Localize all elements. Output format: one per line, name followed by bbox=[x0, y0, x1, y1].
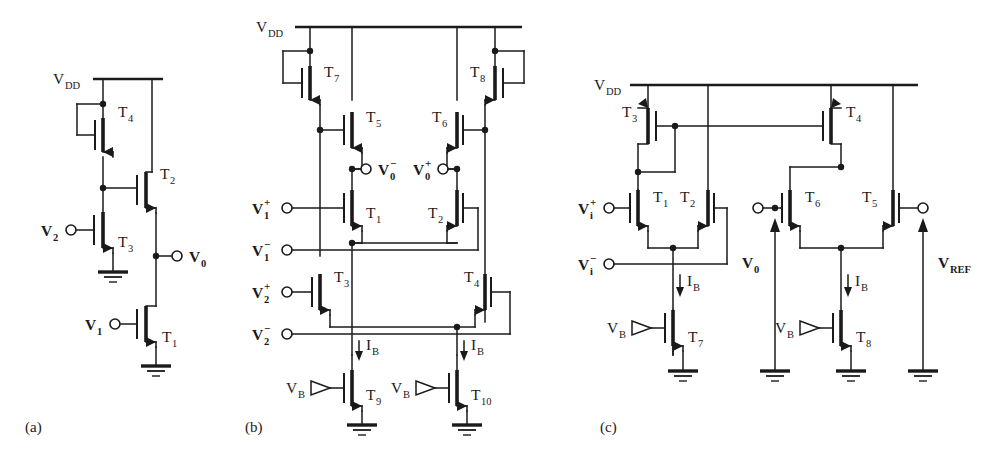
label-c-V0: V bbox=[742, 254, 754, 271]
label-c-IB-left: I bbox=[687, 272, 692, 289]
transistor-c-T5 bbox=[883, 190, 918, 248]
port-c-Vip[interactable] bbox=[604, 203, 614, 213]
label-b-V1p-sub: 1 bbox=[264, 210, 269, 221]
label-c-T2-sub: 2 bbox=[690, 198, 695, 209]
transistor-T1 bbox=[121, 306, 156, 366]
label-b-T8-sub: 8 bbox=[480, 73, 485, 84]
transistor-T4 bbox=[77, 104, 113, 188]
transistor-T9 bbox=[330, 355, 362, 425]
label-c-T1-sub: 1 bbox=[663, 198, 668, 209]
transistor-c-T2 bbox=[698, 190, 727, 264]
label-c-VB-left-sub: B bbox=[619, 329, 626, 340]
label-c-VREF: V bbox=[938, 254, 950, 271]
transistor-T8 bbox=[485, 51, 524, 130]
transistor-T10 bbox=[435, 355, 467, 425]
label-a-T2: T bbox=[160, 165, 170, 182]
label-b-V0p-sup: + bbox=[425, 157, 431, 169]
current-b-IB-right bbox=[460, 341, 468, 361]
label-b-V0p-sub: 0 bbox=[425, 171, 430, 182]
label-b-T6: T bbox=[432, 108, 442, 125]
label-b-vdd-sub: DD bbox=[268, 28, 284, 39]
label-b-V1p-sup: + bbox=[264, 196, 270, 208]
label-c-VB-left: V bbox=[607, 319, 619, 336]
label-b-T7-sub: 7 bbox=[334, 73, 339, 84]
port-b-V1p[interactable] bbox=[282, 203, 292, 213]
label-b-V2n: V bbox=[252, 326, 264, 343]
label-b-T2: T bbox=[428, 204, 438, 221]
label-b-V1n: V bbox=[252, 242, 264, 259]
label-b-V0n-sub: 0 bbox=[390, 171, 395, 182]
label-b-IB-right: I bbox=[471, 336, 476, 353]
port-b-V0p[interactable] bbox=[438, 164, 448, 174]
label-b-T7: T bbox=[324, 63, 334, 80]
label-b-vdd: V bbox=[256, 18, 268, 35]
label-b-T1: T bbox=[366, 204, 376, 221]
label-c-IB-right-sub: B bbox=[861, 282, 868, 293]
ground-b-T9 bbox=[347, 425, 377, 435]
label-c-T6: T bbox=[805, 188, 815, 205]
label-b-V2p: V bbox=[252, 284, 264, 301]
label-a-T4: T bbox=[118, 103, 128, 120]
label-c-T1: T bbox=[653, 188, 663, 205]
circuit-a: T 4 T 2 T 3 V 2 V 0 bbox=[41, 70, 206, 376]
circuit-b: V DD T 7 T 8 bbox=[252, 18, 524, 435]
port-b-V0n[interactable] bbox=[361, 164, 371, 174]
label-a-vdd: V bbox=[53, 70, 65, 87]
label-c-T8-sub: 8 bbox=[866, 338, 871, 349]
port-c-T5-gate[interactable] bbox=[918, 203, 928, 213]
label-b-T9-sub: 9 bbox=[376, 396, 381, 407]
transistor-c-T4 bbox=[790, 98, 841, 205]
label-c-T3-sub: 3 bbox=[632, 113, 637, 124]
label-a-V2-sub: 2 bbox=[53, 232, 58, 243]
label-b-V2n-sup: − bbox=[264, 322, 270, 334]
label-a-T3: T bbox=[118, 233, 128, 250]
port-c-T6-gate[interactable] bbox=[753, 203, 763, 213]
label-a-T1-sub: 1 bbox=[172, 338, 177, 349]
label-c-vdd-sub: DD bbox=[606, 86, 622, 97]
label-b-VB-right-sub: B bbox=[403, 389, 410, 400]
port-b-V1n[interactable] bbox=[282, 245, 292, 255]
label-b-T4: T bbox=[464, 268, 474, 285]
current-c-IB-left bbox=[676, 275, 684, 297]
ground-a-T3 bbox=[98, 272, 128, 282]
transistor-T6 bbox=[447, 112, 463, 169]
label-c-VREF-sub: REF bbox=[950, 264, 971, 275]
label-a-V0-sub: 0 bbox=[201, 258, 206, 269]
current-b-IB-left bbox=[355, 341, 363, 361]
label-c-T4-sub: 4 bbox=[856, 113, 862, 124]
label-a-T2-sub: 2 bbox=[170, 175, 175, 186]
transistor-T5 bbox=[344, 112, 362, 169]
label-a-T4-sub: 4 bbox=[128, 113, 134, 124]
label-a-V1-sub: 1 bbox=[97, 326, 102, 337]
label-c-T3: T bbox=[622, 103, 632, 120]
transistor-b-T4 bbox=[475, 274, 510, 334]
label-b-V2n-sub: 2 bbox=[264, 336, 269, 347]
label-c-Vip: V bbox=[578, 200, 590, 217]
port-a-V0[interactable] bbox=[172, 251, 182, 261]
label-b-T2-sub: 2 bbox=[438, 214, 443, 225]
label-b-VB-left-sub: B bbox=[298, 389, 305, 400]
ground-c-T8 bbox=[836, 371, 866, 381]
transistor-c-T1 bbox=[614, 190, 648, 248]
label-c-T5-sub: 5 bbox=[872, 198, 877, 209]
subfigure-label-a: (a) bbox=[25, 419, 42, 436]
transistor-c-T3 bbox=[638, 98, 675, 172]
label-b-VB-left: V bbox=[286, 379, 298, 396]
label-b-T5: T bbox=[366, 108, 376, 125]
transistor-b-T1 bbox=[292, 190, 362, 243]
port-c-Vin[interactable] bbox=[604, 259, 614, 269]
transistor-c-T6 bbox=[763, 190, 800, 248]
port-a-V2[interactable] bbox=[66, 225, 76, 235]
subfigure-label-c: (c) bbox=[600, 419, 617, 436]
transistor-c-T8 bbox=[819, 310, 851, 371]
label-c-T8: T bbox=[856, 328, 866, 345]
label-b-T8: T bbox=[470, 63, 480, 80]
label-b-T6-sub: 6 bbox=[442, 118, 447, 129]
bias-connector-b-right bbox=[416, 381, 435, 395]
label-b-V2p-sup: + bbox=[264, 280, 270, 292]
transistor-c-T7 bbox=[651, 310, 683, 371]
port-b-V2n[interactable] bbox=[282, 329, 292, 339]
port-b-V2p[interactable] bbox=[282, 287, 292, 297]
port-a-V1[interactable] bbox=[110, 319, 120, 329]
label-b-VB-right: V bbox=[391, 379, 403, 396]
